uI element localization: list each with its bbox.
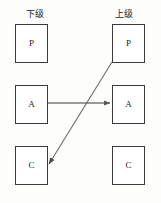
- node-label: A: [28, 100, 35, 109]
- node-label: P: [29, 39, 34, 48]
- node-label: C: [125, 161, 131, 170]
- node-lower-p[interactable]: P: [15, 24, 48, 63]
- node-upper-a[interactable]: A: [112, 85, 145, 124]
- edge-upper-p-to-lower-c: [49, 62, 112, 164]
- node-lower-c[interactable]: C: [15, 146, 48, 185]
- node-upper-c[interactable]: C: [112, 146, 145, 185]
- node-lower-a[interactable]: A: [15, 85, 48, 124]
- column-header-upper: 上级: [115, 9, 133, 20]
- node-upper-p[interactable]: P: [112, 24, 145, 63]
- node-label: C: [28, 161, 34, 170]
- column-header-lower: 下级: [26, 9, 44, 20]
- node-label: P: [126, 39, 131, 48]
- diagram-canvas: 下级 上级 P A C P A C: [0, 0, 161, 203]
- node-label: A: [125, 100, 132, 109]
